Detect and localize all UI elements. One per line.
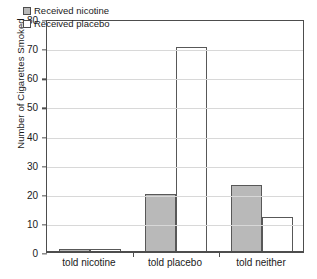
legend-swatch-gray-square-icon bbox=[23, 7, 31, 15]
y-axis-tick-label: 70 bbox=[0, 44, 38, 55]
y-axis-tick-label: 30 bbox=[0, 160, 38, 171]
bars-layer bbox=[47, 21, 303, 252]
gridline bbox=[47, 167, 303, 168]
y-axis-tick-mark bbox=[42, 79, 47, 80]
x-axis-label-told-placebo: told placebo bbox=[148, 257, 202, 268]
bar-told-neither-received-placebo bbox=[262, 217, 293, 252]
y-axis-tick-mark bbox=[42, 253, 47, 254]
x-axis-baseline bbox=[47, 251, 303, 252]
y-axis-tick-label: 50 bbox=[0, 102, 38, 113]
x-axis-label-told-nicotine: told nicotine bbox=[62, 257, 115, 268]
bar-told-placebo-received-placebo bbox=[176, 47, 207, 252]
gridline bbox=[47, 79, 303, 80]
bar-chart: Number of Cigarettes Smoked 010203040506… bbox=[0, 0, 317, 279]
gridline bbox=[47, 196, 303, 197]
x-axis-label-told-neither: told neither bbox=[236, 257, 285, 268]
legend-swatch-white-square-icon bbox=[23, 20, 31, 28]
y-axis-tick-label: 10 bbox=[0, 218, 38, 229]
y-axis-tick-label: 20 bbox=[0, 189, 38, 200]
legend-item-received-nicotine: Received nicotine bbox=[23, 5, 110, 18]
y-axis-tick-label: 0 bbox=[0, 248, 38, 259]
y-axis-tick-mark bbox=[42, 49, 47, 50]
gridline bbox=[47, 50, 303, 51]
y-axis-tick-mark bbox=[42, 224, 47, 225]
plot-area bbox=[46, 20, 304, 253]
y-axis-tick-mark bbox=[42, 108, 47, 109]
y-axis-tick-mark bbox=[42, 195, 47, 196]
legend-label-received-nicotine: Received nicotine bbox=[34, 5, 109, 18]
chart-legend: Received nicotine Received placebo bbox=[23, 5, 110, 30]
legend-item-received-placebo: Received placebo bbox=[23, 18, 110, 31]
y-axis-tick-mark bbox=[42, 166, 47, 167]
gridline bbox=[47, 108, 303, 109]
legend-label-received-placebo: Received placebo bbox=[34, 18, 110, 31]
bar-told-placebo-received-nicotine bbox=[145, 194, 176, 252]
gridline bbox=[47, 225, 303, 226]
y-axis-tick-label: 40 bbox=[0, 131, 38, 142]
y-axis-tick-mark bbox=[42, 137, 47, 138]
y-axis-tick-label: 60 bbox=[0, 73, 38, 84]
x-axis-tick-mark bbox=[219, 252, 220, 257]
x-axis-tick-mark bbox=[133, 252, 134, 257]
gridline bbox=[47, 138, 303, 139]
